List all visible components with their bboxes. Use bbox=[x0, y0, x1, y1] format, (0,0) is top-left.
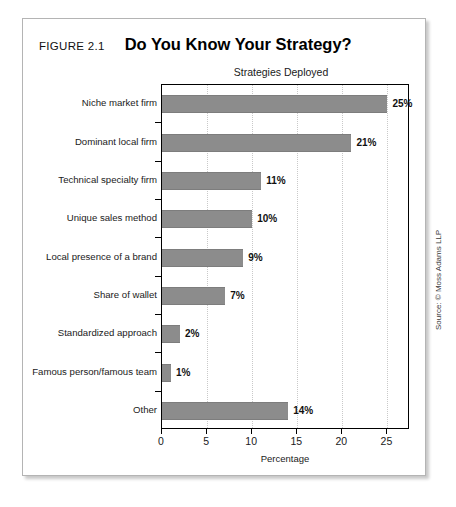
category-label: Niche market firm bbox=[82, 94, 157, 112]
source-note: Source: © Moss Adams LLP bbox=[434, 230, 443, 330]
category-axis-tick bbox=[155, 199, 161, 200]
category-label: Standardized approach bbox=[58, 324, 157, 342]
bar-value-label: 21% bbox=[356, 134, 376, 152]
category-axis-tick bbox=[155, 276, 161, 277]
figure-header: FIGURE 2.1 Do You Know Your Strategy? bbox=[23, 35, 425, 54]
bar-value-label: 25% bbox=[392, 95, 412, 113]
figure-number-label: FIGURE 2.1 bbox=[39, 40, 105, 52]
x-axis-tick bbox=[251, 429, 252, 434]
x-axis-tick-label: 20 bbox=[321, 435, 361, 447]
figure-card: FIGURE 2.1 Do You Know Your Strategy? St… bbox=[22, 18, 426, 476]
x-axis-tick-label: 5 bbox=[186, 435, 226, 447]
bar bbox=[162, 210, 252, 228]
category-axis-tick bbox=[155, 314, 161, 315]
bar bbox=[162, 325, 180, 343]
x-axis-tick-label: 25 bbox=[366, 435, 406, 447]
bar-value-label: 10% bbox=[257, 210, 277, 228]
bar-value-label: 2% bbox=[185, 325, 199, 343]
bar-value-label: 1% bbox=[176, 364, 190, 382]
category-label: Technical specialty firm bbox=[58, 171, 157, 189]
bar bbox=[162, 134, 351, 152]
bar bbox=[162, 402, 288, 420]
category-label: Unique sales method bbox=[67, 209, 157, 227]
x-axis-tick bbox=[386, 429, 387, 434]
bar-value-label: 9% bbox=[248, 249, 262, 267]
bar-value-label: 7% bbox=[230, 287, 244, 305]
category-axis-tick bbox=[155, 237, 161, 238]
bar bbox=[162, 95, 387, 113]
x-axis-tick-label: 0 bbox=[141, 435, 181, 447]
category-label: Dominant local firm bbox=[75, 133, 157, 151]
figure-title: Do You Know Your Strategy? bbox=[125, 35, 352, 54]
category-axis-labels: Niche market firmDominant local firmTech… bbox=[31, 84, 157, 429]
bar bbox=[162, 249, 243, 267]
x-axis-tick-label: 15 bbox=[276, 435, 316, 447]
x-axis-tick-label: 10 bbox=[231, 435, 271, 447]
category-axis-tick bbox=[155, 122, 161, 123]
category-label: Famous person/famous team bbox=[32, 363, 157, 381]
category-label: Share of wallet bbox=[94, 286, 157, 304]
bar-value-label: 11% bbox=[266, 172, 285, 190]
bar-value-label: 14% bbox=[293, 402, 313, 420]
category-label: Local presence of a brand bbox=[46, 248, 157, 266]
x-axis-title: Percentage bbox=[161, 453, 409, 464]
category-axis-tick bbox=[155, 161, 161, 162]
x-axis-tick bbox=[341, 429, 342, 434]
bar bbox=[162, 287, 225, 305]
category-axis-tick bbox=[155, 391, 161, 392]
x-axis-tick bbox=[296, 429, 297, 434]
x-axis-tick bbox=[161, 429, 162, 434]
bar bbox=[162, 172, 261, 190]
x-axis-tick bbox=[206, 429, 207, 434]
category-label: Other bbox=[133, 401, 157, 419]
plot-area: 25%21%11%10%9%7%2%1%14% bbox=[161, 84, 409, 429]
category-axis-tick bbox=[155, 352, 161, 353]
bars-layer: 25%21%11%10%9%7%2%1%14% bbox=[162, 85, 408, 428]
bar bbox=[162, 364, 171, 382]
chart-subtitle: Strategies Deployed bbox=[150, 66, 412, 78]
